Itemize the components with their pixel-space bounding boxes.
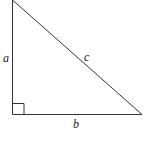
label-a: a [3, 51, 9, 65]
right-triangle-diagram: a c b [0, 0, 146, 141]
label-b: b [73, 117, 79, 131]
label-c: c [84, 50, 90, 64]
right-angle-marker-icon [13, 104, 25, 115]
hypotenuse-c-line [13, 0, 143, 115]
triangle [13, 0, 143, 115]
